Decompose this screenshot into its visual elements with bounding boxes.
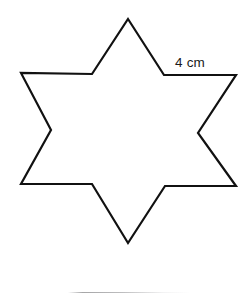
six-pointed-star-figure [0,0,251,298]
star-outline-shape [21,19,236,243]
side-length-label: 4 cm [175,55,205,71]
footer-divider [68,292,190,293]
figure-canvas: 4 cm [0,0,251,298]
